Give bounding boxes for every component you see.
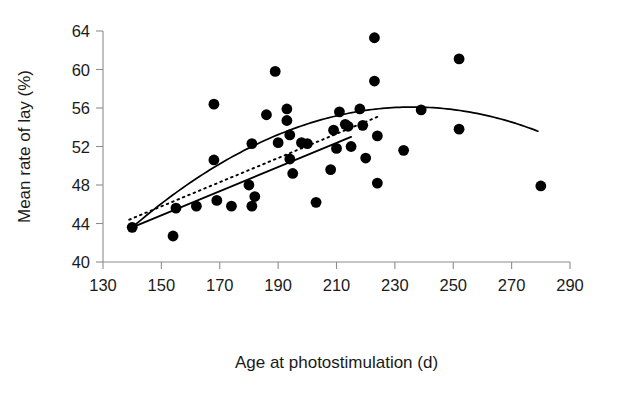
data-point (334, 106, 345, 117)
data-point (369, 76, 380, 87)
data-point (246, 201, 257, 212)
data-point (311, 197, 322, 208)
y-tick-label: 52 (72, 138, 90, 156)
data-point (357, 120, 368, 131)
x-tick-label: 290 (556, 276, 584, 294)
data-point (191, 201, 202, 212)
y-tick-label: 64 (72, 22, 90, 40)
y-axis-title: Mean rate of lay (%) (15, 70, 34, 223)
data-point (454, 124, 465, 135)
linear-fit-solid (132, 137, 351, 227)
data-point (261, 109, 272, 120)
data-point (372, 178, 383, 189)
y-tick-label: 40 (72, 253, 90, 271)
data-point (535, 181, 546, 192)
data-point (127, 222, 138, 233)
data-point (246, 138, 257, 149)
data-point (270, 66, 281, 77)
data-point (354, 104, 365, 115)
y-tick-label: 56 (72, 99, 90, 117)
x-tick-label: 270 (498, 276, 526, 294)
x-tick-label: 210 (323, 276, 351, 294)
x-tick-label: 230 (381, 276, 409, 294)
data-point (346, 141, 357, 152)
x-tick-label: 170 (206, 276, 234, 294)
data-point (281, 115, 292, 126)
data-point (416, 105, 427, 116)
data-point (325, 164, 336, 175)
y-tick-label: 44 (72, 215, 90, 233)
data-point (281, 104, 292, 115)
data-point (331, 143, 342, 154)
x-tick-label: 190 (264, 276, 292, 294)
data-point (171, 203, 182, 214)
scatter-plot: 4044485256606413015017019021023025027029… (0, 0, 622, 397)
data-point (369, 32, 380, 43)
data-point (249, 191, 260, 202)
data-point (454, 54, 465, 65)
data-point (244, 180, 255, 191)
data-point (211, 195, 222, 206)
figure-container: 4044485256606413015017019021023025027029… (0, 0, 622, 397)
data-point (284, 154, 295, 165)
data-point (302, 138, 313, 149)
data-point (398, 145, 409, 156)
x-axis-title: Age at photostimulation (d) (235, 353, 438, 372)
data-point (372, 131, 383, 142)
data-point (287, 168, 298, 179)
data-point (209, 99, 220, 110)
axes-group: 4044485256606413015017019021023025027029… (72, 22, 584, 294)
data-point (284, 130, 295, 141)
data-point (328, 125, 339, 136)
data-point (168, 231, 179, 242)
x-tick-label: 130 (89, 276, 117, 294)
y-tick-label: 60 (72, 61, 90, 79)
data-point (360, 153, 371, 164)
data-point (273, 137, 284, 148)
data-point (226, 201, 237, 212)
y-tick-label: 48 (72, 176, 90, 194)
data-point (209, 155, 220, 166)
x-tick-label: 150 (148, 276, 176, 294)
data-points-group (127, 32, 546, 241)
x-tick-label: 250 (439, 276, 467, 294)
data-point (343, 121, 354, 132)
